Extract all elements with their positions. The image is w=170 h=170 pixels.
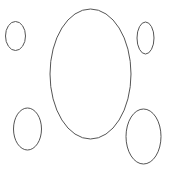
ellipse-diagram [0, 0, 170, 170]
background [0, 0, 170, 170]
